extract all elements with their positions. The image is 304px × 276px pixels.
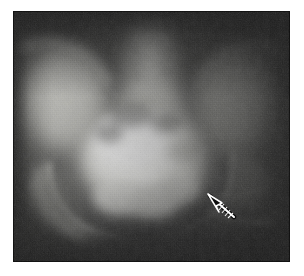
radiograph-figure [0,0,304,276]
radiograph-canvas [13,11,290,262]
figure-caption [0,0,1,1]
radiograph-image [13,11,290,262]
coarse-grain [13,11,290,262]
